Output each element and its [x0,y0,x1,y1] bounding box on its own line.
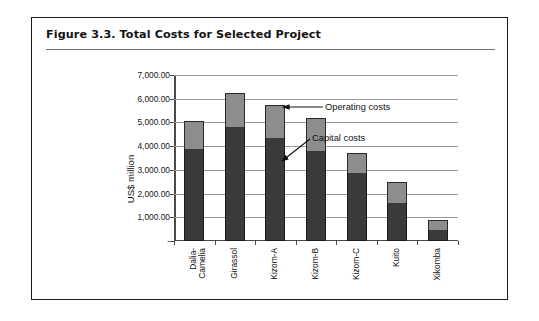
bar-stack [428,220,448,241]
bar-segment-capital-costs [347,173,367,241]
bar-segment-operating-costs [184,121,204,148]
x-tick-mark [458,241,459,245]
bar-segment-capital-costs [265,138,285,241]
figure-title: Figure 3.3. Total Costs for Selected Pro… [46,28,321,41]
bar-stack [225,93,245,241]
y-tick-label: 5,000.00 [137,117,170,127]
bar-segment-capital-costs [428,230,448,241]
x-tick-mark [417,241,418,245]
x-tick-label: Kuito [392,248,401,267]
x-tick-mark [215,241,216,245]
x-tick-label: Girassol [230,248,239,279]
annotation-capital-costs: Capital costs [312,133,365,143]
x-tick-label: Kizom-C [352,248,361,280]
bar-segment-operating-costs [387,182,407,203]
y-tick-label: 3,000.00 [137,165,170,175]
bar-segment-operating-costs [428,220,448,231]
plot-area: Dalia- CameliaGirassolKizom-AKizom-BKizo… [174,75,458,241]
x-tick-label: Kizom-B [311,248,320,280]
x-tick-mark [377,241,378,245]
y-tick-label: 1,000.00 [137,212,170,222]
bar-segment-capital-costs [225,127,245,241]
bar-segment-operating-costs [225,93,245,127]
y-tick-label: 7,000.00 [137,70,170,80]
x-axis-ticks: Dalia- CameliaGirassolKizom-AKizom-BKizo… [174,241,458,301]
bar-segment-operating-costs [265,105,285,138]
y-tick-label: 6,000.00 [137,94,170,104]
x-tick-label: Kizom-A [270,248,279,280]
bar-stack [387,182,407,241]
x-tick-mark [336,241,337,245]
title-divider [46,49,495,50]
annotation-operating-costs: Operating costs [325,102,390,112]
x-tick-mark [255,241,256,245]
y-axis-tick-labels: 7,000.006,000.005,000.004,000.003,000.00… [112,66,170,292]
x-tick-mark [174,241,175,245]
bar-segment-capital-costs [306,151,326,241]
bar-chart: US$ million 7,000.006,000.005,000.004,00… [112,66,487,292]
bar-series-container [174,75,458,241]
bar-segment-capital-costs [184,149,204,241]
bar-stack [184,121,204,241]
y-tick-label: 2,000.00 [137,189,170,199]
bar-stack [265,105,285,241]
x-tick-mark [296,241,297,245]
bar-segment-operating-costs [347,153,367,173]
bar-segment-capital-costs [387,203,407,241]
figure-frame: Figure 3.3. Total Costs for Selected Pro… [31,17,508,300]
bar-stack [347,153,367,241]
y-tick-label: 4,000.00 [137,141,170,151]
x-tick-label: Xikomba [433,248,442,281]
x-tick-label: Dalia- Camelia [189,248,207,279]
